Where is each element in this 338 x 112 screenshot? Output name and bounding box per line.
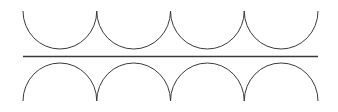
- bottom-arc: [23, 63, 97, 101]
- bottom-arc: [97, 63, 171, 101]
- top-arc: [244, 11, 318, 49]
- top-arc: [97, 11, 171, 49]
- bottom-arc-row: [23, 63, 318, 101]
- arc-diagram: [0, 0, 338, 112]
- top-arc: [171, 11, 245, 49]
- top-arc-row: [23, 11, 318, 49]
- top-arc: [23, 11, 97, 49]
- bottom-arc: [244, 63, 318, 101]
- bottom-arc: [171, 63, 245, 101]
